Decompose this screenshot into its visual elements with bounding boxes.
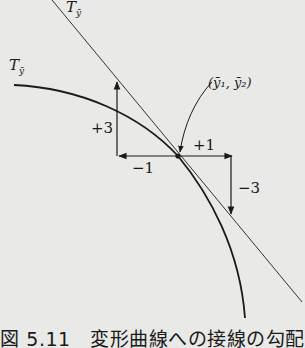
tangent-line: [52, 0, 302, 302]
tangency-point: [175, 153, 180, 158]
figure-caption: 図 5.11 変形曲線への接線の勾配: [0, 324, 305, 348]
point-label: (ȳ₁, ȳ₂): [208, 76, 252, 89]
minus3-label: −3: [238, 181, 260, 196]
curve-label: Tȳ: [9, 58, 24, 76]
plus1-label: +1: [193, 138, 215, 153]
plus3-label: +3: [91, 121, 113, 136]
transformation-curve: [14, 85, 245, 318]
minus1-label: −1: [132, 161, 154, 176]
tangent-line-label: Tȳ: [66, 0, 81, 18]
